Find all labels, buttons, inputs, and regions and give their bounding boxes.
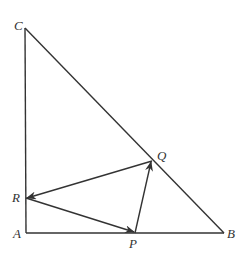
vector-pq [135, 162, 151, 233]
label-a: A [12, 226, 21, 241]
label-p: P [128, 236, 137, 251]
vector-qr [27, 161, 152, 198]
label-r: R [11, 190, 20, 205]
vector-rp [26, 198, 134, 232]
label-c: C [14, 18, 23, 33]
segment-ac [25, 28, 26, 233]
label-b: B [227, 226, 235, 241]
triangle-diagram: C Q R A P B [0, 0, 248, 262]
segment-bc [25, 28, 224, 233]
label-q: Q [157, 148, 167, 163]
